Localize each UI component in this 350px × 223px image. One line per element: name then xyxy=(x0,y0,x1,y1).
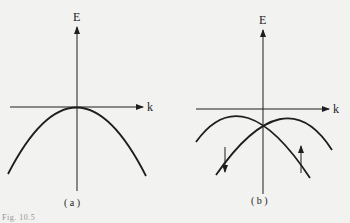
panel-b-caption: ( b ) xyxy=(251,195,268,207)
panel-b-k-label: k xyxy=(333,102,339,116)
label-layer: E k ( a ) E k ( b ) xyxy=(0,0,350,223)
panel-a-k-label: k xyxy=(147,100,153,114)
figure-caption: Fig. 10.5 xyxy=(2,213,35,222)
panel-a-caption: ( a ) xyxy=(64,197,80,209)
panel-a-e-label: E xyxy=(73,10,80,24)
figure-canvas: E k ( a ) E k ( b ) Fig. 10.5 xyxy=(0,0,350,223)
panel-b-e-label: E xyxy=(259,13,266,27)
